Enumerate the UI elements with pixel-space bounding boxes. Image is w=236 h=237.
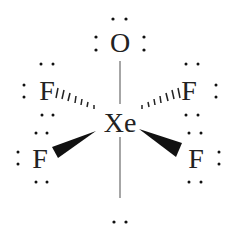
hashed-wedge-upper-right <box>142 88 180 109</box>
fluorine-upper-right: F <box>181 75 197 106</box>
fluorine-upper-left: F <box>39 75 55 106</box>
fluorine-lower-left: F <box>32 143 48 174</box>
xeof4-lewis-structure: O Xe F F <box>0 0 236 237</box>
oxygen-atom: O <box>110 27 130 58</box>
solid-wedge-lower-right <box>139 129 182 157</box>
solid-wedge-lower-left <box>52 131 96 158</box>
hashed-wedge-upper-left <box>56 88 94 109</box>
fluorine-lower-right: F <box>188 143 204 174</box>
xenon-lone-pair <box>112 220 127 223</box>
xenon-atom: Xe <box>104 107 137 138</box>
